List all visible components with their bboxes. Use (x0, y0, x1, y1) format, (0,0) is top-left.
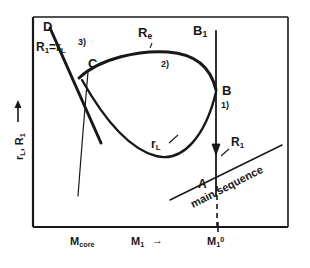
x-axis-label-mcore-sub: core (79, 240, 94, 249)
x-axis-label-m1-zero-M: M (207, 235, 216, 247)
x-axis-label-m1: M1 (131, 236, 144, 248)
re-label-leader (150, 43, 152, 48)
y-axis-label-r: r (13, 156, 25, 160)
x-axis-label-mcore: Mcore (70, 236, 95, 248)
x-axis-label-m1-M: M (131, 235, 140, 247)
label-rL: rL (151, 138, 161, 152)
label-Re-sub: e (147, 31, 152, 41)
x-axis-label-m1-zero-sup: 0 (220, 235, 224, 244)
y-axis-arrow (15, 100, 22, 122)
rl-label-leader (169, 135, 178, 143)
re-curve (79, 52, 216, 90)
x-axis-label-mcore-M: M (70, 235, 79, 247)
thin-vertical-line (78, 72, 88, 196)
plot-frame (33, 17, 288, 227)
r1-label-leader (221, 149, 229, 156)
label-rL-sub: L (156, 143, 161, 152)
label-C: C (88, 57, 97, 70)
label-A: A (198, 178, 207, 190)
label-Re-R: R (138, 25, 147, 40)
label-branch-1: 1) (221, 101, 229, 110)
rl-curve (82, 80, 216, 157)
label-R1-arrow: R1 (231, 136, 244, 150)
x-axis-label-m1-zero: M10 (207, 236, 224, 248)
x-axis-arrow: → (152, 235, 163, 246)
y-axis-label-comma: , R (13, 137, 25, 151)
label-B1: B1 (193, 24, 207, 38)
x-axis-label-m1-sub: 1 (140, 240, 144, 249)
label-r1-equals-rl: R1=rL (36, 41, 66, 55)
label-branch-3: 3) (78, 38, 86, 47)
y-axis-label-subL: L (18, 151, 27, 155)
label-B1-sub: 1 (202, 29, 207, 39)
label-branch-2: 2) (161, 60, 169, 69)
label-B: B (222, 84, 231, 97)
label-r1-equals-rl-subL: L (61, 46, 66, 55)
label-R1-arrow-R: R (231, 135, 240, 149)
label-D: D (43, 20, 52, 33)
y-axis-label: rL, R1 (14, 133, 26, 160)
y-axis-label-sub1: 1 (18, 133, 27, 137)
label-Re: Re (138, 26, 152, 40)
figure-root: D R1=rL 3) C Re 2) B1 B 1) R1 rL A main … (0, 0, 310, 268)
label-B1-B: B (193, 23, 202, 38)
r1-down-arrowhead (212, 144, 220, 155)
label-r1-equals-rl-eq: =r (49, 40, 61, 54)
label-r1-equals-rl-R: R (36, 40, 45, 54)
label-R1-arrow-sub: 1 (240, 141, 244, 150)
